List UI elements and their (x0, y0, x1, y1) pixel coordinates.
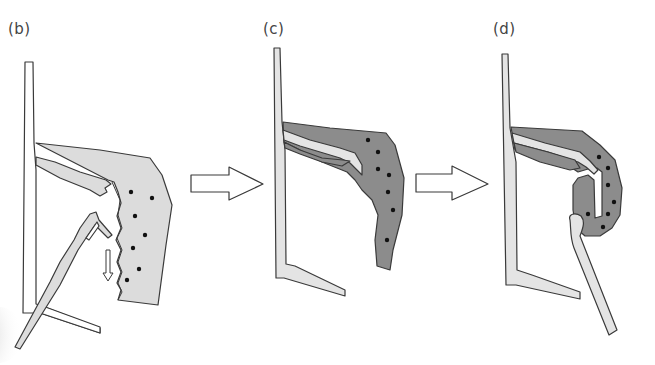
bone-plate-b (23, 62, 100, 333)
diagram-svg (0, 0, 655, 365)
bone-plate-d[interactable] (502, 54, 580, 299)
diagram-canvas: (b) (c) (d) (0, 0, 655, 365)
bone-plate-c[interactable] (274, 48, 345, 296)
down-arrow-icon (103, 250, 113, 281)
panel-b (0, 62, 172, 363)
right-arrow-icon-2[interactable] (416, 166, 488, 200)
right-arrow-icon-1[interactable] (191, 167, 263, 200)
panel-c (274, 48, 404, 296)
panel-d (502, 54, 622, 335)
bone-flange-b (40, 305, 100, 333)
edge-shadow (0, 307, 22, 363)
